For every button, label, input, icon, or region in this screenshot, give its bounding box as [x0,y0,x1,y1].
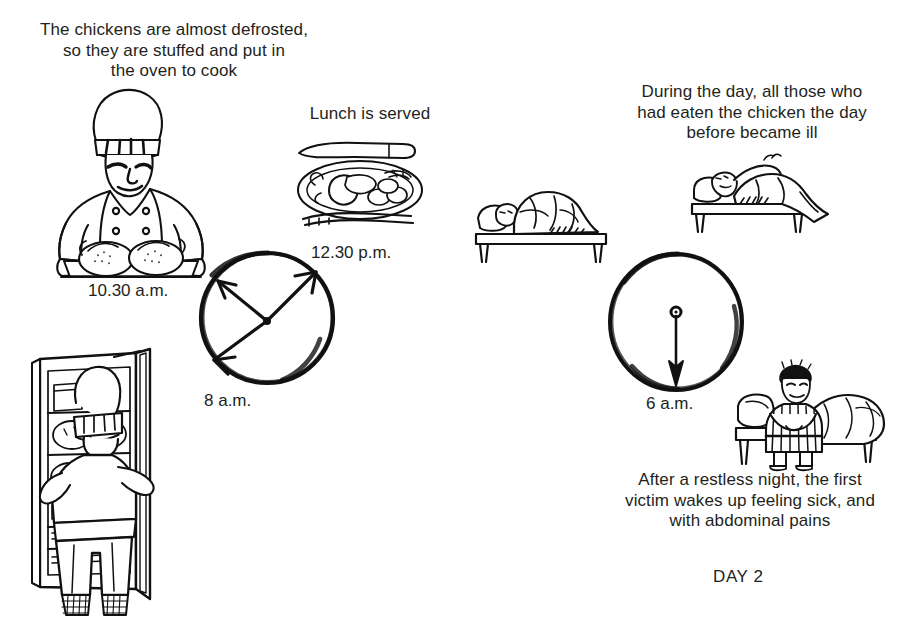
illustration-sick-person-on-bed [726,358,896,473]
illustration-chef-at-refrigerator [18,337,188,617]
caption-chickens-defrosted: The chickens are almost defrosted, so th… [14,20,334,82]
illustration-person-restless-in-bed [686,152,838,237]
illustration-person-asleep-in-bed [468,178,620,263]
diagram-canvas: The chickens are almost defrosted, so th… [0,0,909,622]
time-label-1030am: 10.30 a.m. [88,281,168,301]
illustration-clock-day1 [192,243,342,393]
illustration-plate-of-food [285,133,435,238]
day-2-marker: DAY 2 [713,567,764,587]
caption-during-the-day: During the day, all those who had eaten … [606,82,898,144]
caption-restless-night: After a restless night, the first victim… [600,470,900,532]
time-label-8am: 8 a.m. [204,391,251,411]
caption-lunch-is-served: Lunch is served [290,104,450,125]
